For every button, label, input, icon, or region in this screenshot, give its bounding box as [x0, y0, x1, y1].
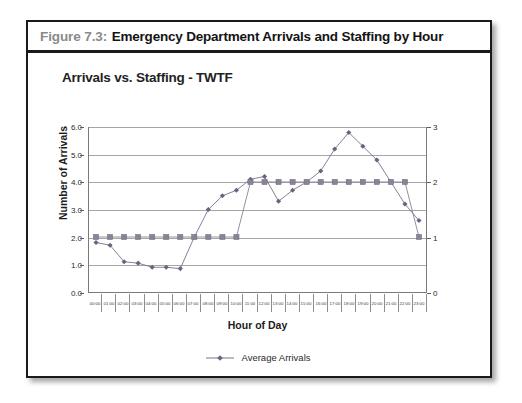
- x-tick-label: 02:00: [117, 301, 128, 305]
- data-point-marker: [374, 179, 379, 184]
- data-point-marker: [136, 234, 141, 239]
- x-tick-label-cell: 02:00: [116, 294, 130, 312]
- data-point-marker: [192, 234, 197, 239]
- data-point-marker: [388, 179, 393, 184]
- y2-tick-label: 2: [433, 178, 437, 187]
- x-tick-label-cell: 06:00: [173, 294, 187, 312]
- x-tick-label-cell: 05:00: [159, 294, 173, 312]
- y-axis-left-tick-labels: 0.01.02.03.04.05.06.0: [50, 127, 84, 293]
- figure-frame: Figure 7.3: Emergency Department Arrival…: [26, 20, 492, 378]
- y2-tick-mark: [427, 293, 431, 294]
- x-tick-label-cell: 12:00: [258, 294, 272, 312]
- x-tick-label-cell: 16:00: [314, 294, 328, 312]
- data-point-marker: [318, 179, 323, 184]
- x-tick-label: 21:00: [386, 301, 397, 305]
- series-average-arrivals: [93, 130, 421, 271]
- data-point-marker: [346, 179, 351, 184]
- x-tick-label-cell: 03:00: [130, 294, 144, 312]
- data-point-marker: [332, 179, 337, 184]
- figure-caption: Figure 7.3: Emergency Department Arrival…: [28, 22, 490, 53]
- y-tick-mark: [80, 155, 84, 156]
- y2-tick-mark: [427, 182, 431, 183]
- x-tick-label: 23:00: [414, 301, 425, 305]
- data-point-marker: [416, 234, 421, 239]
- x-tick-label-cell: 09:00: [215, 294, 229, 312]
- series-staffing: [93, 179, 421, 239]
- x-tick-label: 10:00: [230, 301, 241, 305]
- data-point-marker: [220, 234, 225, 239]
- x-tick-label-cell: 20:00: [371, 294, 385, 312]
- x-tick-label-cell: 17:00: [328, 294, 342, 312]
- x-tick-label: 06:00: [174, 301, 185, 305]
- data-point-marker: [360, 179, 365, 184]
- x-tick-label-cell: 11:00: [243, 294, 257, 312]
- chart-title: Arrivals vs. Staffing - TWTF: [62, 70, 233, 85]
- x-tick-label: 03:00: [132, 301, 143, 305]
- y-tick-mark: [80, 182, 84, 183]
- data-point-marker: [206, 234, 211, 239]
- x-tick-label-cell: 21:00: [385, 294, 399, 312]
- x-tick-label: 16:00: [315, 301, 326, 305]
- x-tick-label-cell: 23:00: [413, 294, 427, 312]
- y2-tick-mark: [427, 238, 431, 239]
- data-point-marker: [150, 234, 155, 239]
- x-tick-label: 04:00: [146, 301, 157, 305]
- x-tick-label-cell: 04:00: [145, 294, 159, 312]
- x-tick-label-cell: 14:00: [286, 294, 300, 312]
- y-tick-mark: [80, 127, 84, 128]
- data-point-marker: [122, 234, 127, 239]
- x-tick-label-cell: 13:00: [272, 294, 286, 312]
- x-tick-label-cell: 19:00: [356, 294, 370, 312]
- x-tick-label: 18:00: [343, 301, 354, 305]
- plot-area: [88, 127, 427, 293]
- data-point-marker: [234, 234, 239, 239]
- y2-tick-label: 0: [433, 289, 437, 298]
- legend-marker-icon: [205, 353, 235, 363]
- legend-label-average-arrivals: Average Arrivals: [242, 352, 311, 363]
- data-point-marker: [93, 240, 98, 245]
- data-point-marker: [262, 174, 267, 179]
- x-tick-label: 20:00: [372, 301, 383, 305]
- x-tick-label: 17:00: [329, 301, 340, 305]
- x-tick-label: 12:00: [259, 301, 270, 305]
- data-point-marker: [402, 179, 407, 184]
- x-tick-label: 05:00: [160, 301, 171, 305]
- data-point-marker: [276, 179, 281, 184]
- y-tick-mark: [80, 265, 84, 266]
- chart-legend: Average Arrivals: [88, 352, 427, 363]
- figure-caption-label: Figure 7.3:: [40, 29, 107, 44]
- y2-tick-mark: [427, 127, 431, 128]
- x-tick-label: 15:00: [301, 301, 312, 305]
- y-axis-right-tick-labels: 0123: [431, 127, 451, 293]
- data-point-marker: [164, 234, 169, 239]
- data-point-marker: [150, 265, 155, 270]
- x-axis-title: Hour of Day: [88, 319, 427, 331]
- x-tick-label-cell: 08:00: [201, 294, 215, 312]
- x-tick-label-cell: 07:00: [187, 294, 201, 312]
- data-point-marker: [178, 266, 183, 271]
- figure-caption-title: Emergency Department Arrivals and Staffi…: [112, 29, 444, 44]
- x-tick-label: 13:00: [273, 301, 284, 305]
- x-tick-label: 22:00: [400, 301, 411, 305]
- y-tick-mark: [80, 238, 84, 239]
- x-tick-label: 08:00: [202, 301, 213, 305]
- x-tick-label-cell: 00:00: [88, 294, 102, 312]
- data-point-marker: [248, 179, 253, 184]
- x-tick-label: 01:00: [103, 301, 114, 305]
- x-axis-tick-labels: 00:0001:0002:0003:0004:0005:0006:0007:00…: [88, 294, 427, 314]
- data-point-marker: [304, 179, 309, 184]
- x-tick-label: 14:00: [287, 301, 298, 305]
- x-tick-label: 11:00: [245, 301, 256, 305]
- data-point-marker: [262, 179, 267, 184]
- x-tick-label: 07:00: [188, 301, 199, 305]
- x-tick-label-cell: 15:00: [300, 294, 314, 312]
- y2-tick-label: 1: [433, 233, 437, 242]
- chart-plot: [89, 127, 426, 292]
- y-tick-mark: [80, 210, 84, 211]
- data-point-marker: [136, 261, 141, 266]
- x-tick-label-cell: 10:00: [229, 294, 243, 312]
- x-tick-label: 19:00: [358, 301, 369, 305]
- data-point-marker: [164, 265, 169, 270]
- data-point-marker: [290, 179, 295, 184]
- data-point-marker: [178, 234, 183, 239]
